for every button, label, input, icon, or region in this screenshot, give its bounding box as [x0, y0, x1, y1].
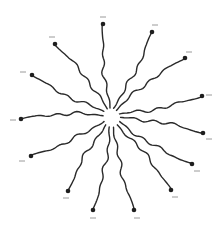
filament-strand: [32, 75, 104, 111]
terminal-dot-icon: [132, 208, 137, 213]
filament-strand: [68, 125, 106, 191]
filament-strand: [119, 97, 202, 114]
filament-strand: [31, 121, 105, 155]
terminal-dot-icon: [66, 189, 71, 194]
filament-strand: [102, 24, 110, 108]
filament-strand: [54, 44, 107, 108]
terminal-dot-icon: [101, 22, 106, 27]
terminal-dot-icon: [30, 73, 35, 78]
terminal-dot-icon: [29, 154, 34, 159]
terminal-dot-icon: [183, 56, 188, 61]
terminal-dot-icon: [150, 30, 155, 35]
central-core: [104, 110, 120, 126]
filament-strand: [114, 32, 152, 108]
terminal-dot-icon: [169, 188, 174, 193]
filament-strand: [113, 127, 134, 210]
terminal-dot-icon: [53, 42, 58, 47]
filament-strand: [120, 117, 203, 133]
radial-star-diagram: [0, 0, 224, 228]
terminal-dot-icon: [19, 117, 24, 122]
terminal-dot-icon: [190, 162, 195, 167]
terminal-dot-icon: [91, 208, 96, 213]
terminal-dot-icon: [201, 131, 206, 136]
filament-strand: [117, 125, 171, 190]
filament-strand: [21, 112, 103, 119]
terminal-dot-icon: [200, 94, 205, 99]
